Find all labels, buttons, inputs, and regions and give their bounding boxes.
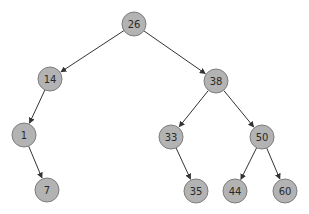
node-label: 50 [256,132,269,143]
node-label: 35 [190,186,203,197]
node-label: 38 [210,76,223,87]
tree-node-44: 44 [223,179,247,203]
edges-group [29,31,280,180]
node-label: 14 [44,74,57,85]
edge-50-to-60 [267,148,280,179]
edge-14-to-1 [29,90,44,123]
edge-38-to-50 [224,90,254,127]
tree-node-50: 50 [250,125,274,149]
edge-33-to-35 [176,148,190,179]
edge-26-to-38 [144,31,205,74]
tree-node-14: 14 [38,67,62,91]
edge-50-to-44 [241,148,257,180]
tree-node-60: 60 [273,179,297,203]
tree-node-35: 35 [184,179,208,203]
edge-38-to-33 [179,90,208,127]
node-label: 33 [165,132,178,143]
tree-node-7: 7 [35,178,59,202]
tree-node-38: 38 [204,69,228,93]
node-label: 26 [128,19,141,30]
edge-1-to-7 [29,146,42,178]
node-label: 1 [21,130,27,141]
node-label: 60 [279,186,292,197]
tree-node-26: 26 [122,12,146,36]
node-label: 7 [44,185,50,196]
binary-tree-diagram: 261438133507354460 [0,0,309,214]
tree-node-1: 1 [12,123,36,147]
edge-26-to-14 [61,31,124,72]
nodes-group: 261438133507354460 [12,12,297,203]
tree-node-33: 33 [159,125,183,149]
node-label: 44 [229,186,242,197]
